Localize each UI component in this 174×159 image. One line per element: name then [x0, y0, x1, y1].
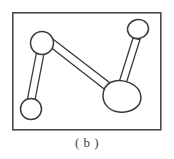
- bottom-left-circle: [21, 99, 42, 120]
- bottom-right-blob: [103, 81, 141, 113]
- top-left-circle: [31, 32, 54, 55]
- figure-caption: ( b ): [0, 133, 174, 153]
- figure-panel: ( b ): [0, 0, 174, 159]
